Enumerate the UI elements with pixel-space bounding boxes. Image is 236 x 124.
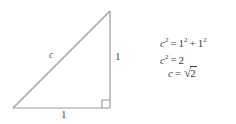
equation-line-2: c2=2 xyxy=(160,50,236,67)
square-root-icon: √2 xyxy=(183,66,197,80)
eq1-equals: = xyxy=(168,37,178,49)
equation-line-3: c=√2 xyxy=(160,66,236,80)
eq1-term2-exponent: 2 xyxy=(203,36,207,44)
radicand: 2 xyxy=(190,66,197,79)
triangle-hypotenuse xyxy=(13,11,110,108)
label-vertical-leg: 1 xyxy=(115,51,121,62)
right-angle-marker-icon xyxy=(102,100,110,108)
label-hypotenuse: c xyxy=(49,50,53,60)
eq3-equals: = xyxy=(173,67,183,79)
equation-block: c2=12+12 c2=2 c=√2 xyxy=(160,33,236,80)
figure-container: c 1 1 c2=12+12 c2=2 c=√2 xyxy=(0,0,236,124)
eq1-plus: + xyxy=(188,37,198,49)
label-horizontal-leg: 1 xyxy=(61,109,67,120)
eq2-equals: = xyxy=(168,53,178,65)
eq2-rhs: 2 xyxy=(179,53,185,65)
equation-line-1: c2=12+12 xyxy=(160,33,236,50)
